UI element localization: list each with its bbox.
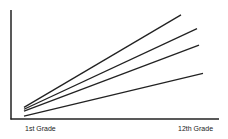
x-label-end: 12th Grade [178, 125, 213, 132]
series-lines [24, 15, 203, 116]
line-chart: 1st Grade 12th Grade [0, 0, 228, 139]
x-label-start: 1st Grade [25, 125, 56, 132]
series-line-3 [24, 45, 199, 111]
series-line-4 [24, 73, 203, 116]
series-line-2 [24, 29, 197, 110]
